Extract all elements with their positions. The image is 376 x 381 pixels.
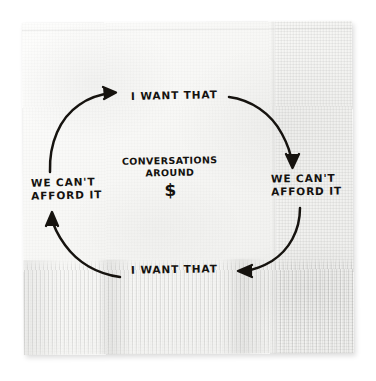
cycle-node-top-label: I WANT THAT	[131, 88, 218, 103]
cycle-node-left-label: WE CAN'T AFFORD IT	[31, 175, 103, 203]
cycle-node-left-line2: AFFORD IT	[31, 188, 102, 203]
cycle-node-right-label: WE CAN'T AFFORD IT	[271, 172, 342, 199]
cycle-center-label: CONVERSATIONS AROUND $	[119, 154, 222, 201]
cycle-node-right-line2: AFFORD IT	[271, 185, 342, 199]
cycle-node-bottom-label: I WANT THAT	[131, 262, 218, 277]
napkin-photo: I WANT THAT WE CAN'T AFFORD IT I WANT TH…	[0, 0, 376, 381]
cycle-node-right-line1: WE CAN'T	[271, 172, 342, 186]
cycle-center-line1: CONVERSATIONS	[119, 154, 221, 168]
cycle-center-line2: AROUND	[119, 166, 221, 180]
horizontal-crease	[22, 27, 352, 32]
dollar-sign-icon: $	[119, 179, 221, 201]
